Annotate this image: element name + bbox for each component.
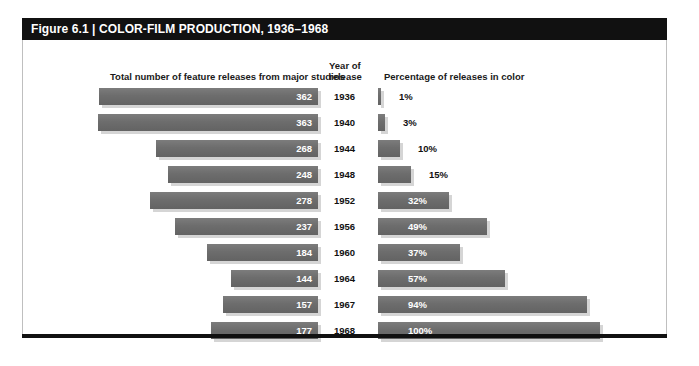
percentage-bar (378, 140, 400, 157)
year-label: 1960 (334, 245, 374, 260)
percentage-bar-track: 1% (378, 88, 618, 106)
chart-row: 268194410% (0, 140, 699, 166)
percentage-bar-track: 57% (378, 270, 618, 288)
percentage-bar-track: 49% (378, 218, 618, 236)
releases-bar: 144 (231, 270, 318, 287)
releases-bar: 248 (168, 166, 318, 183)
chart-row: 144196457% (0, 270, 699, 296)
column-header-year: Year of release (329, 60, 362, 82)
releases-bar-value: 237 (296, 220, 312, 233)
releases-bar-value: 248 (296, 168, 312, 181)
percentage-bar (378, 114, 385, 131)
percentage-bar-value: 94% (408, 298, 427, 311)
releases-bar-value: 157 (296, 298, 312, 311)
releases-bar-track: 184 (0, 244, 318, 262)
percentage-bar-value: 3% (403, 116, 417, 129)
percentage-bar-track: 15% (378, 166, 618, 184)
releases-bar: 157 (223, 296, 318, 313)
releases-bar-value: 363 (296, 116, 312, 129)
percentage-bar-track: 3% (378, 114, 618, 132)
releases-bar-value: 184 (296, 246, 312, 259)
chart-row: 278195232% (0, 192, 699, 218)
releases-bar-value: 362 (296, 90, 312, 103)
percentage-bar-value: 57% (408, 272, 427, 285)
year-label: 1940 (334, 115, 374, 130)
percentage-bar (378, 88, 381, 105)
year-label: 1964 (334, 271, 374, 286)
percentage-bar-value: 15% (429, 168, 448, 181)
chart-row: 36319403% (0, 114, 699, 140)
releases-bar-track: 248 (0, 166, 318, 184)
chart-rows: 36219361%36319403%268194410%248194815%27… (0, 88, 699, 348)
percentage-bar-track: 32% (378, 192, 618, 210)
chart-row: 184196037% (0, 244, 699, 270)
year-label: 1936 (334, 89, 374, 104)
releases-bar: 363 (98, 114, 318, 131)
figure-title: Figure 6.1 | COLOR-FILM PRODUCTION, 1936… (22, 22, 328, 36)
figure-bottom-rule (22, 334, 667, 338)
year-label: 1948 (334, 167, 374, 182)
releases-bar: 278 (150, 192, 318, 209)
percentage-bar-value: 1% (399, 90, 413, 103)
percentage-bar-track: 10% (378, 140, 618, 158)
percentage-bar-value: 32% (408, 194, 427, 207)
percentage-bar (378, 270, 505, 287)
releases-bar-track: 268 (0, 140, 318, 158)
percentage-bar-value: 10% (418, 142, 437, 155)
column-header-percentage: Percentage of releases in color (384, 71, 524, 82)
releases-bar-track: 362 (0, 88, 318, 106)
percentage-bar (378, 218, 487, 235)
year-label: 1956 (334, 219, 374, 234)
percentage-bar-value: 49% (408, 220, 427, 233)
column-header-year-line1: Year of (329, 60, 362, 71)
year-label: 1944 (334, 141, 374, 156)
chart-row: 248194815% (0, 166, 699, 192)
figure-title-bar: Figure 6.1 | COLOR-FILM PRODUCTION, 1936… (22, 18, 667, 40)
releases-bar-track: 157 (0, 296, 318, 314)
percentage-bar-value: 37% (408, 246, 427, 259)
percentage-bar (378, 166, 411, 183)
releases-bar: 237 (175, 218, 318, 235)
chart-row: 36219361% (0, 88, 699, 114)
releases-bar-value: 278 (296, 194, 312, 207)
releases-bar-value: 268 (296, 142, 312, 155)
releases-bar-value: 144 (296, 272, 312, 285)
releases-bar: 268 (156, 140, 318, 157)
releases-bar-track: 144 (0, 270, 318, 288)
releases-bar: 184 (207, 244, 318, 261)
chart-row: 157196794% (0, 296, 699, 322)
column-header-releases: Total number of feature releases from ma… (110, 71, 345, 82)
releases-bar-track: 363 (0, 114, 318, 132)
chart-row: 237195649% (0, 218, 699, 244)
releases-bar-track: 278 (0, 192, 318, 210)
percentage-bar-track: 37% (378, 244, 618, 262)
column-header-year-line2: release (329, 71, 362, 82)
year-label: 1952 (334, 193, 374, 208)
year-label: 1967 (334, 297, 374, 312)
releases-bar-track: 237 (0, 218, 318, 236)
releases-bar: 362 (99, 88, 318, 105)
percentage-bar-track: 94% (378, 296, 618, 314)
